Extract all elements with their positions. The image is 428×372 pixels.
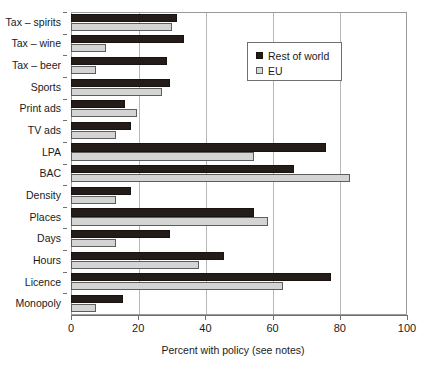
x-axis-tick-label: 60: [266, 322, 278, 334]
y-axis-label: Print ads: [20, 103, 61, 114]
chart-legend: Rest of world EU: [247, 42, 342, 81]
y-axis-label: Monopoly: [15, 298, 61, 309]
bar-chart: Tax – spiritsTax – wineTax – beerSportsP…: [0, 0, 428, 372]
bar-row: [71, 12, 407, 34]
y-axis-label: BAC: [39, 168, 61, 179]
bar-rest-of-world: [71, 273, 331, 281]
bar-eu: [71, 131, 116, 139]
bar-row: [71, 185, 407, 207]
bar-rest-of-world: [71, 208, 254, 216]
bar-row: [71, 34, 407, 56]
bar-eu: [71, 261, 199, 269]
y-axis-tick: [63, 120, 67, 121]
bar-row: [71, 250, 407, 272]
x-axis-tick-label: 40: [199, 322, 211, 334]
bar-eu: [71, 44, 106, 52]
bar-eu: [71, 109, 137, 117]
bar-rest-of-world: [71, 165, 294, 173]
y-axis-label: Tax – wine: [11, 38, 61, 49]
bar-eu: [71, 304, 96, 312]
legend-label-eu: EU: [268, 65, 283, 77]
bar-eu: [71, 88, 162, 96]
y-axis-tick: [63, 164, 67, 165]
x-axis-tick-label: 80: [334, 322, 346, 334]
bar-rest-of-world: [71, 230, 170, 238]
bar-row: [71, 120, 407, 142]
bar-rest-of-world: [71, 143, 326, 151]
bar-rest-of-world: [71, 57, 167, 65]
bar-eu: [71, 152, 254, 160]
legend-label-rest-of-world: Rest of world: [268, 50, 329, 62]
bar-rest-of-world: [71, 295, 123, 303]
bar-rest-of-world: [71, 122, 131, 130]
bar-eu: [71, 23, 172, 31]
x-axis-tick: [273, 315, 274, 320]
y-axis-tick: [63, 185, 67, 186]
x-axis-tick: [340, 315, 341, 320]
legend-swatch-rest-of-world: [256, 52, 263, 59]
x-axis-tick: [205, 315, 206, 320]
y-axis-tick: [63, 55, 67, 56]
y-axis-tick: [63, 250, 67, 251]
bar-rest-of-world: [71, 100, 125, 108]
x-axis-tick: [138, 315, 139, 320]
y-axis-label: LPA: [42, 147, 61, 158]
x-axis-line: [71, 315, 407, 316]
bar-row: [71, 99, 407, 121]
y-axis-tick: [63, 12, 67, 13]
y-axis-label: Sports: [31, 82, 61, 93]
y-axis-label: Days: [37, 233, 61, 244]
legend-item-eu: EU: [256, 63, 341, 78]
bar-eu: [71, 239, 116, 247]
bar-rest-of-world: [71, 14, 177, 22]
bar-eu: [71, 282, 283, 290]
bar-row: [71, 77, 407, 99]
y-axis-tick: [63, 228, 67, 229]
y-axis-tick: [63, 34, 67, 35]
y-axis-label: Hours: [33, 255, 61, 266]
x-axis-tick-label: 0: [68, 322, 74, 334]
x-axis-tick: [407, 315, 408, 320]
bar-rest-of-world: [71, 79, 170, 87]
x-axis-title-text: Percent with policy (see notes): [162, 344, 305, 356]
bar-eu: [71, 196, 116, 204]
bar-row: [71, 55, 407, 77]
y-axis-tick: [63, 207, 67, 208]
bar-row: [71, 142, 407, 164]
bar-row: [71, 272, 407, 294]
y-axis-label: TV ads: [28, 125, 61, 136]
bar-row: [71, 207, 407, 229]
y-axis-label: Tax – beer: [12, 60, 61, 71]
y-axis-label: Licence: [25, 277, 61, 288]
y-axis-tick: [63, 293, 67, 294]
x-axis-tick: [71, 315, 72, 320]
y-axis-label: Tax – spirits: [6, 17, 61, 28]
bar-rest-of-world: [71, 187, 131, 195]
bar-eu: [71, 174, 350, 182]
y-axis-label: Density: [26, 190, 61, 201]
y-axis-tick: [63, 99, 67, 100]
y-axis-labels: Tax – spiritsTax – wineTax – beerSportsP…: [0, 12, 67, 315]
x-axis-title: Percent with policy (see notes): [0, 344, 428, 356]
x-axis-tick-label: 100: [398, 322, 416, 334]
bar-rest-of-world: [71, 252, 224, 260]
y-axis-tick: [63, 272, 67, 273]
x-axis-tick-label: 20: [132, 322, 144, 334]
bar-row: [71, 293, 407, 315]
bar-row: [71, 164, 407, 186]
y-axis-tick: [63, 142, 67, 143]
bar-eu: [71, 66, 96, 74]
y-axis-label: Places: [29, 212, 61, 223]
legend-item-rest-of-world: Rest of world: [256, 48, 341, 63]
bar-rest-of-world: [71, 35, 184, 43]
y-axis-tick: [63, 77, 67, 78]
legend-swatch-eu: [256, 67, 263, 74]
bar-row: [71, 228, 407, 250]
bar-eu: [71, 217, 268, 225]
bar-rows: [71, 12, 407, 315]
